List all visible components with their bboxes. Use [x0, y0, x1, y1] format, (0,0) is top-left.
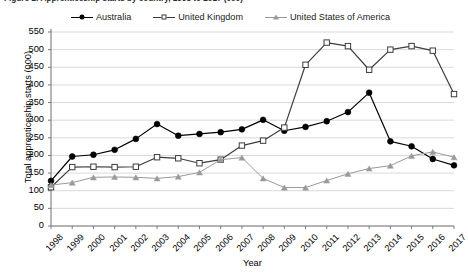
data-point-square-marker — [91, 164, 96, 169]
data-point-square-marker — [409, 43, 414, 48]
data-point-circle-marker — [69, 154, 75, 160]
data-point-square-marker — [176, 156, 181, 161]
y-tick-label: 350 — [0, 97, 44, 107]
data-point-square-marker — [345, 43, 350, 48]
data-point-triangle-marker — [345, 171, 351, 176]
y-tick-label: 400 — [0, 79, 44, 89]
data-point-square-marker — [282, 125, 287, 130]
data-point-circle-marker — [387, 138, 393, 144]
data-point-circle-marker — [260, 117, 266, 123]
data-point-square-marker — [70, 164, 75, 169]
data-point-square-marker — [451, 91, 456, 96]
data-point-circle-marker — [154, 121, 160, 127]
data-point-circle-marker — [366, 90, 372, 96]
data-point-circle-marker — [133, 136, 139, 142]
data-point-circle-marker — [303, 124, 309, 130]
data-point-square-marker — [197, 161, 202, 166]
data-point-circle-marker — [324, 118, 330, 124]
y-tick-label: 150 — [0, 167, 44, 177]
y-tick-label: 50 — [0, 202, 44, 212]
data-point-square-marker — [133, 164, 138, 169]
data-point-circle-marker — [409, 143, 415, 149]
data-point-square-marker — [112, 164, 117, 169]
data-point-circle-marker — [112, 147, 118, 153]
data-point-circle-marker — [218, 129, 224, 135]
y-tick-label: 100 — [0, 185, 44, 195]
data-point-square-marker — [366, 67, 371, 72]
y-tick-label: 200 — [0, 149, 44, 159]
data-point-square-marker — [154, 155, 159, 160]
data-point-circle-marker — [197, 131, 203, 137]
data-point-circle-marker — [175, 133, 181, 139]
y-tick-label: 550 — [0, 26, 44, 36]
data-point-circle-marker — [239, 126, 245, 132]
data-point-square-marker — [430, 48, 435, 53]
y-tick-label: 500 — [0, 44, 44, 54]
data-point-circle-marker — [430, 156, 436, 162]
data-point-square-marker — [260, 138, 265, 143]
y-tick-label: 250 — [0, 132, 44, 142]
y-tick-label: 300 — [0, 114, 44, 124]
data-point-square-marker — [324, 40, 329, 45]
data-point-circle-marker — [345, 109, 351, 115]
data-point-triangle-marker — [324, 178, 330, 183]
y-tick-label: 0 — [0, 220, 44, 230]
data-point-square-marker — [388, 47, 393, 52]
y-tick-label: 450 — [0, 61, 44, 71]
data-point-square-marker — [239, 143, 244, 148]
data-point-circle-marker — [451, 162, 457, 168]
data-point-circle-marker — [91, 152, 97, 158]
data-point-square-marker — [303, 62, 308, 67]
